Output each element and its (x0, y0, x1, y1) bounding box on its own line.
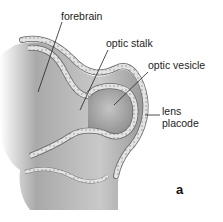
label-optic-stalk: optic stalk (106, 37, 153, 49)
label-optic-vesicle: optic vesicle (148, 59, 205, 71)
diagram-canvas: forebrain optic stalk optic vesicle lens… (0, 0, 223, 222)
panel-label: a (176, 182, 184, 197)
label-placode: placode (162, 117, 199, 129)
label-lens: lens (162, 105, 181, 117)
label-forebrain: forebrain (61, 10, 103, 22)
